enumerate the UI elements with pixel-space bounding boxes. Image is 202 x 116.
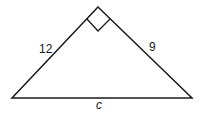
triangle-diagram: 12 9 c <box>0 0 202 116</box>
left-leg-label: 12 <box>39 42 53 56</box>
right-angle-marker <box>87 19 110 31</box>
right-leg-label: 9 <box>149 40 156 54</box>
hypotenuse-label: c <box>96 98 102 112</box>
